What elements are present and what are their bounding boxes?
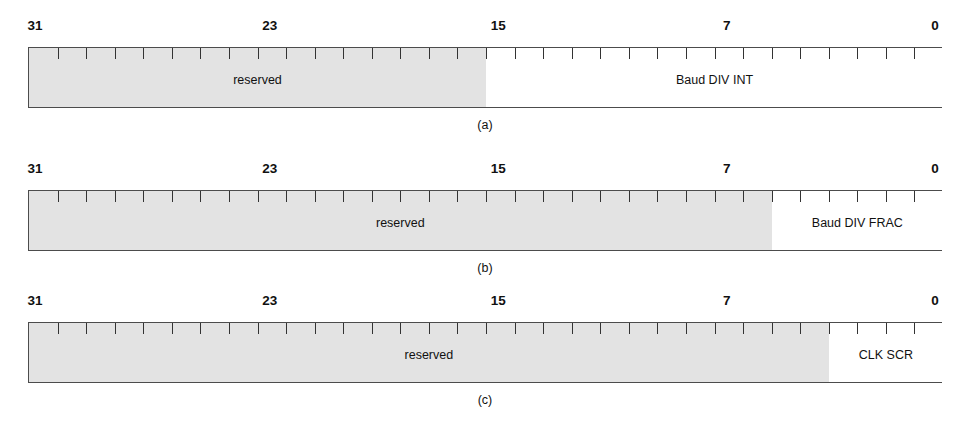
bit-label-7: 7: [723, 161, 731, 177]
bit-label-0: 0: [931, 18, 939, 34]
bit-label-31: 31: [27, 293, 42, 309]
bit-label-0: 0: [931, 161, 939, 177]
bit-number-ruler: 31231570: [0, 161, 970, 183]
figure-caption: (a): [0, 118, 970, 133]
figure-caption: (b): [0, 261, 970, 276]
bit-label-0: 0: [931, 293, 939, 309]
bit-number-ruler: 31231570: [0, 18, 970, 40]
bit-number-ruler: 31231570: [0, 293, 970, 315]
bitfield-clk-scr: CLK SCR: [829, 323, 943, 382]
bit-label-7: 7: [723, 18, 731, 34]
bitfield-label: reserved: [405, 348, 454, 362]
bitfield-baud-div-int: Baud DIV INT: [486, 48, 943, 107]
figure-caption: (c): [0, 393, 970, 408]
bit-label-15: 15: [491, 18, 506, 34]
bitfield-label: reserved: [376, 216, 425, 230]
bitfield-reserved: reserved: [29, 323, 829, 382]
bit-label-7: 7: [723, 293, 731, 309]
register-bitfield-figure: 31231570reservedBaud DIV INT(a)31231570r…: [0, 0, 970, 434]
bit-label-31: 31: [27, 18, 42, 34]
bit-label-23: 23: [262, 293, 277, 309]
register-box: reservedCLK SCR: [28, 322, 942, 383]
bit-label-31: 31: [27, 161, 42, 177]
bit-label-15: 15: [491, 293, 506, 309]
bit-label-23: 23: [262, 161, 277, 177]
bitfield-reserved: reserved: [29, 191, 772, 250]
bitfield-label: Baud DIV FRAC: [812, 216, 903, 230]
bitfield-baud-div-frac: Baud DIV FRAC: [772, 191, 943, 250]
bitfield-label: reserved: [233, 73, 282, 87]
bitfield-label: CLK SCR: [859, 348, 913, 362]
register-box: reservedBaud DIV FRAC: [28, 190, 942, 251]
bitfield-reserved: reserved: [29, 48, 486, 107]
register-box: reservedBaud DIV INT: [28, 47, 942, 108]
bitfield-label: Baud DIV INT: [676, 73, 753, 87]
bit-label-23: 23: [262, 18, 277, 34]
bit-label-15: 15: [491, 161, 506, 177]
